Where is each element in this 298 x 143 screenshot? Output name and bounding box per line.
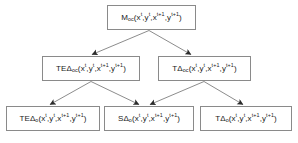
node-sDo: SΔo(xt,yt,xt+1,yt+1)	[104, 106, 194, 131]
edge-teDoc-to-sDo	[91, 82, 139, 105]
node-teDo: TEΔo(xt,yt,xt+1,yt+1)	[6, 106, 100, 131]
node-tDo-label: TΔo(xt,yt,xt+1,yt+1)	[215, 115, 277, 123]
node-teDoc-label: TEΔoc(xt,yt,xt+1,yt+1)	[56, 65, 126, 73]
diagram-canvas: Moc(xt,yt,xt+1,yt+1) TEΔoc(xt,yt,xt+1,yt…	[0, 0, 298, 143]
edge-moc-to-teDoc	[92, 31, 149, 55]
edge-moc-to-tDoc	[149, 31, 191, 55]
node-tDoc: TΔoc(xt,yt,xt+1,yt+1)	[158, 56, 251, 81]
node-tDo: TΔo(xt,yt,xt+1,yt+1)	[200, 106, 292, 131]
node-tDoc-label: TΔoc(xt,yt,xt+1,yt+1)	[172, 65, 236, 73]
edge-teDoc-to-teDo	[50, 82, 91, 105]
node-moc: Moc(xt,yt,xt+1,yt+1)	[107, 5, 196, 30]
edge-tDoc-to-sDo	[150, 82, 204, 105]
edge-tDoc-to-tDo	[204, 82, 243, 105]
node-moc-label: Moc(xt,yt,xt+1,yt+1)	[121, 14, 182, 22]
node-teDoc: TEΔoc(xt,yt,xt+1,yt+1)	[42, 56, 140, 81]
node-sDo-label: SΔo(xt,yt,xt+1,yt+1)	[118, 115, 180, 123]
node-teDo-label: TEΔo(xt,yt,xt+1,yt+1)	[19, 115, 86, 123]
